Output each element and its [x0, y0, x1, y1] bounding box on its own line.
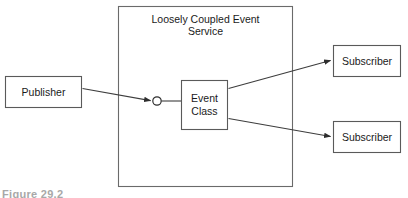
publisher-node[interactable]: Publisher [6, 77, 82, 108]
subscriber-top-label: Subscriber [342, 55, 393, 67]
diagram-canvas: Loosely Coupled Event Service Publisher … [0, 0, 408, 198]
subscriber-bottom-label: Subscriber [342, 131, 393, 143]
event-class-label-line1: Event [191, 92, 218, 104]
event-interface-port-icon[interactable] [153, 97, 161, 105]
subscriber-top-node[interactable]: Subscriber [334, 46, 401, 77]
event-class-node[interactable]: Event Class [182, 81, 228, 130]
figure-caption-clip: Figure 29.2 [0, 188, 150, 198]
container-title-line1: Loosely Coupled Event [152, 13, 260, 25]
publisher-label: Publisher [22, 86, 66, 98]
figure-caption: Figure 29.2 [2, 188, 63, 198]
subscriber-bottom-node[interactable]: Subscriber [334, 122, 401, 153]
event-service-diagram: Loosely Coupled Event Service Publisher … [0, 0, 408, 198]
event-class-label-line2: Class [191, 105, 217, 117]
container-title-line2: Service [188, 25, 223, 37]
